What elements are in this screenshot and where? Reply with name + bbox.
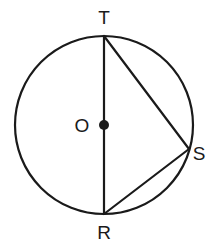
label-O: O [75, 115, 90, 136]
label-R: R [97, 222, 111, 243]
label-T: T [98, 7, 110, 28]
label-S: S [193, 143, 206, 164]
chord-TS [104, 36, 189, 149]
center-point-O [99, 120, 109, 130]
circle-diagram: T O S R [0, 0, 221, 250]
